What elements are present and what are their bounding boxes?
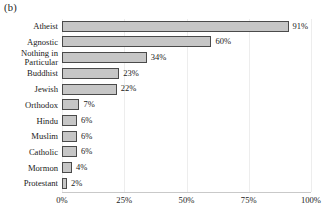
bar [62, 115, 77, 126]
category-label: Jewish [0, 85, 62, 94]
bar-value-label: 7% [83, 99, 94, 110]
gridline [311, 19, 312, 192]
bar [62, 52, 147, 63]
bar-value-label: 6% [81, 115, 92, 126]
category-label: Atheist [0, 22, 62, 31]
bar-row: 23% [62, 66, 311, 82]
x-tick-label: 0% [56, 195, 67, 205]
bar [62, 21, 289, 32]
bar-value-label: 4% [76, 162, 87, 173]
bar-value-label: 22% [121, 83, 137, 94]
x-tick-label: 75% [241, 195, 257, 205]
figure-panel-b: (b) AtheistAgnosticNothing in Particular… [0, 0, 329, 224]
bar [62, 36, 211, 47]
bar-value-label: 34% [151, 52, 167, 63]
bar [62, 131, 77, 142]
bar-row: 6% [62, 113, 311, 129]
bar-row: 91% [62, 19, 311, 35]
bar-row: 60% [62, 35, 311, 51]
panel-label: (b) [4, 2, 17, 13]
x-tick-label: 25% [116, 195, 132, 205]
category-label: Hindu [0, 117, 62, 126]
bar-row: 4% [62, 161, 311, 177]
plot-area: 91%60%34%23%22%7%6%6%6%4%2% [62, 19, 311, 192]
bar [62, 68, 119, 79]
bar-row: 7% [62, 98, 311, 114]
bar-value-label: 91% [293, 21, 309, 32]
category-label: Muslim [0, 132, 62, 141]
x-axis-line [62, 192, 311, 193]
category-axis: AtheistAgnosticNothing in ParticularBudd… [0, 19, 62, 192]
bar-row: 22% [62, 82, 311, 98]
category-label: Catholic [0, 148, 62, 157]
x-tick-label: 50% [179, 195, 195, 205]
bar-value-label: 60% [215, 36, 231, 47]
bar [62, 146, 77, 157]
category-label: Agnostic [0, 38, 62, 47]
bar-value-label: 6% [81, 131, 92, 142]
bar [62, 99, 79, 110]
bar-row: 2% [62, 176, 311, 192]
x-tick-label: 100% [301, 195, 321, 205]
bar [62, 162, 72, 173]
bar-value-label: 2% [71, 178, 82, 189]
bar-row: 6% [62, 129, 311, 145]
bar-row: 6% [62, 145, 311, 161]
bar-value-label: 23% [123, 68, 139, 79]
category-label: Buddhist [0, 69, 62, 78]
bar [62, 178, 67, 189]
bar [62, 84, 117, 95]
category-label: Protestant [0, 179, 62, 188]
bar-row: 34% [62, 50, 311, 66]
category-label: Nothing in Particular [0, 49, 62, 66]
bar-value-label: 6% [81, 146, 92, 157]
category-label: Mormon [0, 164, 62, 173]
category-label: Orthodox [0, 101, 62, 110]
